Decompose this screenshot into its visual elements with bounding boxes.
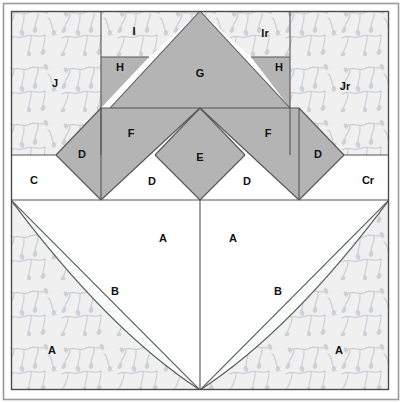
label-H-right: H xyxy=(275,61,283,73)
label-Cr: Cr xyxy=(362,174,375,186)
label-F-left: F xyxy=(128,127,135,139)
label-Ir: Ir xyxy=(261,27,269,39)
label-E: E xyxy=(196,151,203,163)
label-F-right: F xyxy=(265,127,272,139)
label-B-left: B xyxy=(111,285,119,297)
label-G: G xyxy=(196,67,205,79)
label-C: C xyxy=(30,174,38,186)
label-D-inner-left: D xyxy=(148,175,156,187)
label-J: J xyxy=(52,77,58,89)
label-Jr: Jr xyxy=(340,80,351,92)
quilt-block-diagram: J Jr I Ir H H G F F D D D D E C Cr A A A… xyxy=(0,0,402,403)
label-A-upper-left: A xyxy=(159,232,167,244)
label-I: I xyxy=(132,25,135,37)
label-D-inner-right: D xyxy=(243,175,251,187)
label-A-lower-left: A xyxy=(48,344,56,356)
lower-left-quadrant xyxy=(11,200,200,390)
lower-right-quadrant xyxy=(200,200,389,390)
quilt-block-canvas: J Jr I Ir H H G F F D D D D E C Cr A A A… xyxy=(0,0,402,403)
label-A-upper-right: A xyxy=(229,232,237,244)
label-A-lower-right: A xyxy=(335,344,343,356)
label-B-right: B xyxy=(274,285,282,297)
label-D-right: D xyxy=(314,148,322,160)
label-H-left: H xyxy=(116,61,124,73)
label-D-left: D xyxy=(78,148,86,160)
